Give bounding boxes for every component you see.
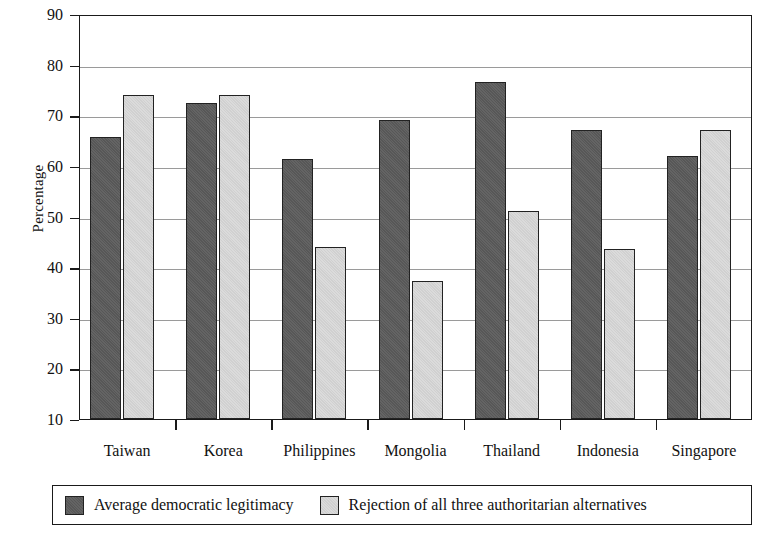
x-tick-mark bbox=[656, 420, 657, 430]
chart-legend: Average democratic legitimacy Rejection … bbox=[52, 485, 752, 525]
y-tick-mark bbox=[70, 167, 79, 168]
x-tick-mark bbox=[271, 420, 272, 430]
y-tick-mark bbox=[70, 420, 79, 421]
y-tick-label: 60 bbox=[23, 159, 63, 175]
y-tick-mark bbox=[70, 116, 79, 117]
bar-mongolia-series-2 bbox=[412, 281, 443, 419]
y-tick-label: 30 bbox=[23, 311, 63, 327]
x-category-label-indonesia: Indonesia bbox=[560, 443, 656, 459]
bar-singapore-series-1 bbox=[667, 156, 698, 419]
bar-chart-figure: Percentage 908070605040302010 TaiwanKore… bbox=[0, 0, 759, 533]
bar-singapore-series-2 bbox=[700, 130, 731, 419]
bar-taiwan-series-2 bbox=[123, 95, 154, 419]
legend-swatch-series-1 bbox=[65, 496, 84, 515]
x-category-label-korea: Korea bbox=[175, 443, 271, 459]
y-tick-mark bbox=[70, 15, 79, 16]
bar-indonesia-series-1 bbox=[571, 130, 602, 419]
bar-philippines-series-2 bbox=[315, 247, 346, 419]
gridline bbox=[80, 117, 751, 118]
x-tick-mark bbox=[464, 420, 465, 430]
y-tick-mark bbox=[70, 66, 79, 67]
y-tick-label: 10 bbox=[23, 412, 63, 428]
gridline bbox=[80, 168, 751, 169]
bar-indonesia-series-2 bbox=[604, 249, 635, 419]
x-category-label-philippines: Philippines bbox=[271, 443, 367, 459]
legend-label-series-2: Rejection of all three authoritarian alt… bbox=[349, 496, 647, 514]
bar-thailand-series-2 bbox=[508, 211, 539, 419]
gridline bbox=[80, 67, 751, 68]
y-tick-mark bbox=[70, 319, 79, 320]
y-tick-mark bbox=[70, 218, 79, 219]
y-tick-label: 50 bbox=[23, 210, 63, 226]
y-tick-label: 20 bbox=[23, 361, 63, 377]
gridline bbox=[80, 269, 751, 270]
y-tick-label: 70 bbox=[23, 108, 63, 124]
bar-korea-series-2 bbox=[219, 95, 250, 419]
y-tick-mark bbox=[70, 268, 79, 269]
x-category-label-thailand: Thailand bbox=[464, 443, 560, 459]
plot-area bbox=[79, 15, 752, 420]
bar-mongolia-series-1 bbox=[379, 120, 410, 419]
x-category-label-taiwan: Taiwan bbox=[79, 443, 175, 459]
bar-philippines-series-1 bbox=[282, 159, 313, 419]
y-tick-mark bbox=[70, 369, 79, 370]
x-tick-mark bbox=[175, 420, 176, 430]
y-tick-label: 40 bbox=[23, 260, 63, 276]
x-category-label-mongolia: Mongolia bbox=[367, 443, 463, 459]
x-tick-mark bbox=[560, 420, 561, 430]
legend-swatch-series-2 bbox=[320, 496, 339, 515]
bar-taiwan-series-1 bbox=[90, 137, 121, 419]
x-tick-mark bbox=[367, 420, 368, 430]
legend-label-series-1: Average democratic legitimacy bbox=[94, 496, 294, 514]
legend-item: Rejection of all three authoritarian alt… bbox=[320, 496, 647, 515]
y-tick-label: 80 bbox=[23, 58, 63, 74]
bar-korea-series-1 bbox=[186, 103, 217, 419]
y-tick-label: 90 bbox=[23, 7, 63, 23]
legend-item: Average democratic legitimacy bbox=[65, 496, 294, 515]
gridline bbox=[80, 219, 751, 220]
y-axis-label: Percentage bbox=[30, 139, 47, 259]
x-category-label-singapore: Singapore bbox=[656, 443, 752, 459]
bar-thailand-series-1 bbox=[475, 82, 506, 419]
